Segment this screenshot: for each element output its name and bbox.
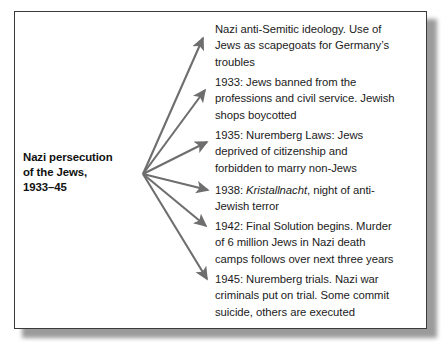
branch-text-ideology: Nazi anti-Semitic ideology. Use of Jews … (215, 21, 389, 70)
branch-1-line-1: Nazi anti-Semitic ideology. Use of (215, 21, 389, 37)
branch-2-line-1: 1933: Jews banned from the (215, 74, 395, 90)
branch-5-line-2: of 6 million Jews in Nazi death (215, 234, 393, 250)
branch-text-1933-bans: 1933: Jews banned from the professions a… (215, 74, 395, 123)
branch-6-line-2: criminals put on trial. Some commit (215, 287, 389, 303)
branch-1-line-3: troubles (215, 54, 389, 70)
branch-text-1938-kristallnacht: 1938: Kristallnacht, night of anti- Jewi… (215, 182, 375, 215)
branch-2-line-3: shops boycotted (215, 107, 395, 123)
branch-4-line-2: Jewish terror (215, 198, 375, 214)
branch-6-line-3: suicide, others are executed (215, 304, 389, 320)
branch-3-line-2: deprived of citizenship and (215, 143, 363, 159)
branch-text-1935-nuremberg-laws: 1935: Nuremberg Laws: Jews deprived of c… (215, 127, 363, 176)
branch-3-line-1: 1935: Nuremberg Laws: Jews (215, 127, 363, 143)
branch-text-1942-final-solution: 1942: Final Solution begins. Murder of 6… (215, 218, 393, 267)
branch-5-line-3: camps follows over next three years (215, 251, 393, 267)
root-label-line-1: Nazi persecution (23, 150, 141, 165)
branch-3-line-3: forbidden to marry non-Jews (215, 160, 363, 176)
branch-4-prefix: 1938: (215, 184, 246, 196)
branch-text-1945-nuremberg-trials: 1945: Nuremberg trials. Nazi war crimina… (215, 271, 389, 320)
branch-4-italic-term: Kristallnacht (246, 184, 307, 196)
branch-2-line-2: professions and civil service. Jewish (215, 90, 395, 106)
branch-4-line-1: 1938: Kristallnacht, night of anti- (215, 182, 375, 198)
root-node-label: Nazi persecution of the Jews, 1933–45 (23, 150, 141, 196)
root-label-line-2: of the Jews, (23, 165, 141, 180)
branch-5-line-1: 1942: Final Solution begins. Murder (215, 218, 393, 234)
root-label-line-3: 1933–45 (23, 180, 141, 195)
branch-4-suffix: , night of anti- (307, 184, 375, 196)
branch-6-line-1: 1945: Nuremberg trials. Nazi war (215, 271, 389, 287)
diagram-canvas: Nazi persecution of the Jews, 1933–45 Na… (0, 0, 445, 357)
branch-1-line-2: Jews as scapegoats for Germany’s (215, 37, 389, 53)
